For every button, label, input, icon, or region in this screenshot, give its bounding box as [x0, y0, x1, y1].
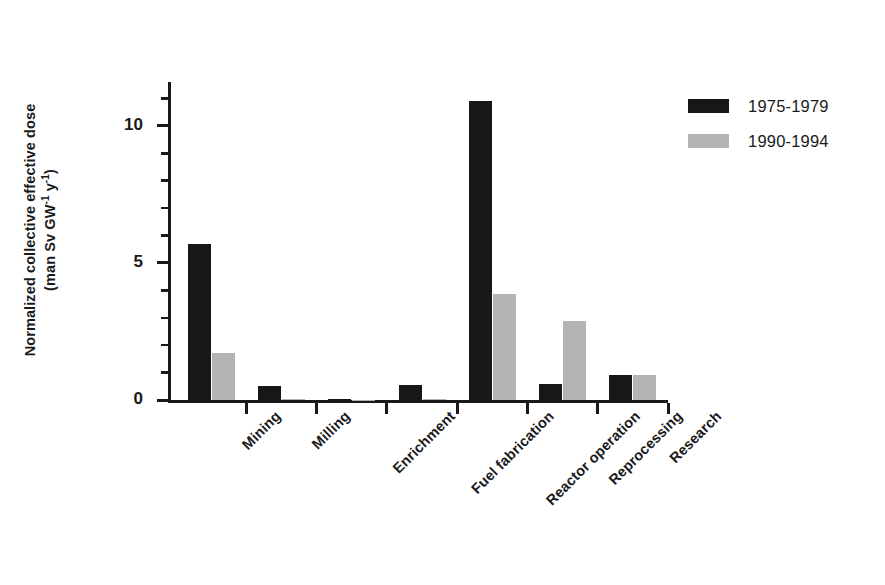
- x-axis-category-label: Enrichment: [389, 408, 457, 476]
- y-axis-title-line2: (man Sv GW-1 y-1): [40, 169, 60, 291]
- y-axis-title-unit-pre: (man Sv GW: [42, 205, 58, 291]
- y-axis-tick-minor: [161, 234, 168, 237]
- y-axis-tick-minor: [161, 207, 168, 210]
- x-axis-category-labels: MiningMillingEnrichmentFuel fabricationR…: [168, 404, 688, 524]
- legend-swatch-icon: [688, 134, 729, 148]
- chart-figure: Normalized collective effective dose (ma…: [0, 0, 885, 585]
- bar: [328, 399, 351, 400]
- legend-swatch-icon: [688, 99, 729, 113]
- y-axis-tick-major: [157, 261, 168, 264]
- y-axis-tick-minor: [161, 97, 168, 100]
- y-axis-tick-major: [157, 124, 168, 127]
- y-axis-tick-label: 5: [134, 252, 143, 272]
- bar: [633, 375, 656, 400]
- legend-label: 1990-1994: [748, 132, 829, 151]
- plot-area: 0510: [168, 82, 668, 400]
- chart-legend: 1975-19791990-1994: [688, 96, 873, 166]
- y-axis-title-sup-1: -1: [40, 195, 51, 204]
- y-axis-tick-label-holder: 0: [157, 399, 158, 400]
- y-axis-tick-minor: [161, 317, 168, 320]
- bar: [423, 399, 446, 400]
- bar: [609, 375, 632, 400]
- y-axis-tick-label-holder: 5: [157, 262, 158, 263]
- y-axis-title: Normalized collective effective dose (ma…: [6, 55, 76, 405]
- bar: [188, 244, 211, 400]
- y-axis-title-unit-mid: y: [42, 183, 58, 195]
- y-axis-title-line1: Normalized collective effective dose: [22, 104, 40, 357]
- x-axis-category-label: Milling: [309, 408, 353, 452]
- y-axis-tick-label: 10: [124, 115, 143, 135]
- bar: [399, 385, 422, 400]
- bars-layer: [168, 82, 668, 400]
- legend-item[interactable]: 1990-1994: [688, 131, 873, 151]
- x-axis-spine: [168, 400, 668, 403]
- bar: [258, 386, 281, 400]
- y-axis-tick-minor: [161, 179, 168, 182]
- x-axis-category-label: Mining: [239, 408, 284, 453]
- y-axis-title-unit-post: ): [42, 169, 58, 174]
- y-axis-tick-minor: [161, 371, 168, 374]
- bar: [469, 101, 492, 400]
- y-axis-tick-minor: [161, 344, 168, 347]
- y-axis-title-sup-2: -1: [40, 174, 51, 183]
- x-axis-category-label: Fuel fabrication: [468, 408, 557, 497]
- legend-label: 1975-1979: [748, 97, 829, 116]
- y-axis-tick-label: 0: [134, 389, 143, 409]
- y-axis-tick-major: [157, 399, 168, 402]
- legend-item[interactable]: 1975-1979: [688, 96, 873, 116]
- y-axis-tick-minor: [161, 152, 168, 155]
- bar: [563, 321, 586, 401]
- bar: [539, 384, 562, 400]
- bar: [282, 399, 305, 400]
- bar: [212, 353, 235, 400]
- y-axis-tick-label-holder: 10: [157, 125, 158, 126]
- bar: [493, 294, 516, 400]
- y-axis-tick-minor: [161, 289, 168, 292]
